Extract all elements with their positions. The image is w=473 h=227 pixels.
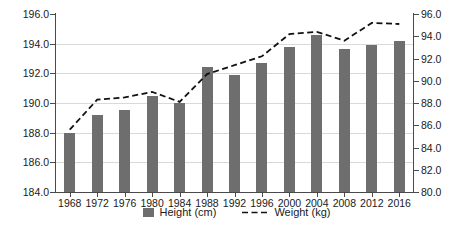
bar-1968 [64,133,75,192]
y-tick-left [50,133,55,134]
y-tick-label-right: 96.0 [421,9,441,19]
y-tick-label-right: 84.0 [421,143,441,153]
chart-container: 184.0186.0188.0190.0192.0194.0196.0 80.0… [0,0,473,227]
y-tick-left [50,162,55,163]
legend-item-weight[interactable]: Weight (kg) [242,206,330,218]
y-tick-label-left: 194.0 [23,39,49,49]
y-tick-right [414,125,419,126]
legend-label-weight: Weight (kg) [274,206,330,218]
y-tick-right [414,170,419,171]
y-tick-left [50,103,55,104]
y-tick-label-right: 90.0 [421,76,441,86]
y-tick-label-left: 196.0 [23,9,49,19]
y-tick-label-right: 80.0 [421,187,441,197]
bar-2008 [339,49,350,192]
y-tick-label-left: 184.0 [23,187,49,197]
bar-1972 [92,115,103,192]
bar-1992 [229,75,240,192]
gridline [56,44,413,45]
bar-2016 [394,41,405,192]
y-tick-right [414,103,419,104]
y-tick-label-right: 82.0 [421,165,441,175]
y-tick-label-right: 88.0 [421,98,441,108]
y-tick-label-left: 190.0 [23,98,49,108]
y-tick-right [414,14,419,15]
y-axis-left-line [55,13,56,193]
legend-square-icon [143,208,154,217]
bar-2012 [366,45,377,192]
bar-2000 [284,47,295,192]
bar-1996 [256,63,267,192]
y-tick-right [414,192,419,193]
y-tick-right [414,148,419,149]
bar-1988 [202,67,213,192]
bar-1984 [174,103,185,192]
y-tick-label-left: 188.0 [23,128,49,138]
y-tick-label-left: 192.0 [23,68,49,78]
y-tick-label-right: 92.0 [421,54,441,64]
y-tick-left [50,14,55,15]
bar-2004 [311,35,322,192]
y-tick-label-left: 186.0 [23,157,49,167]
y-tick-left [50,44,55,45]
y-tick-right [414,81,419,82]
y-tick-right [414,36,419,37]
y-tick-left [50,73,55,74]
y-tick-left [50,192,55,193]
legend-item-height[interactable]: Height (cm) [143,206,217,218]
y-tick-label-right: 94.0 [421,31,441,41]
bar-1976 [119,110,130,192]
legend-dashed-line-icon [242,208,268,217]
bar-1980 [147,96,158,192]
legend-label-height: Height (cm) [160,206,217,218]
chart-legend: Height (cm) Weight (kg) [0,206,473,218]
y-tick-label-right: 86.0 [421,120,441,130]
y-tick-right [414,59,419,60]
